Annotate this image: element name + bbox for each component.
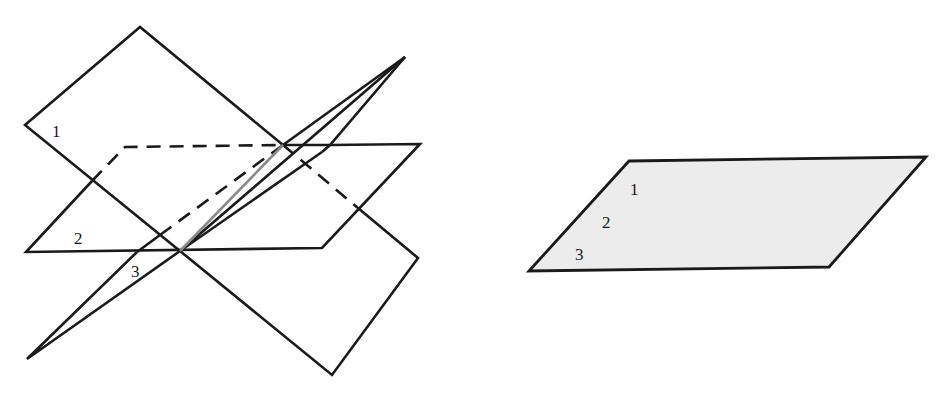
diagram-canvas: 1 2 3 1 2 3	[0, 0, 950, 401]
right-figure-coincident-planes	[529, 157, 926, 271]
plane-2	[26, 144, 420, 252]
left-figure-three-intersecting-planes	[25, 27, 420, 375]
left-label-plane-3: 3	[131, 262, 140, 281]
plane-1	[25, 27, 418, 375]
intersection-line	[180, 145, 283, 251]
shaded-plane	[529, 157, 926, 271]
right-label-plane-2: 2	[602, 213, 611, 232]
diagram-svg: 1 2 3 1 2 3	[0, 0, 950, 401]
left-label-plane-2: 2	[74, 229, 83, 248]
left-label-plane-1: 1	[52, 122, 61, 141]
right-label-plane-1: 1	[630, 180, 639, 199]
right-label-plane-3: 3	[575, 245, 584, 264]
plane-3	[27, 57, 405, 359]
